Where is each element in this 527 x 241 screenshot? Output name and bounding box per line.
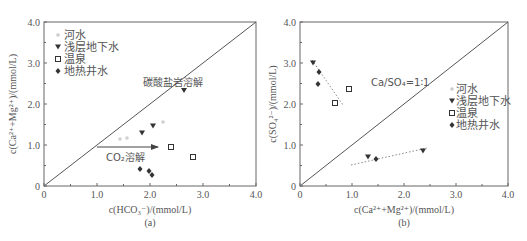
y-tick-label: 1.0 — [284, 140, 297, 151]
y-tick-label: 2.0 — [284, 99, 297, 110]
x-tick-label: 2.0 — [398, 189, 411, 200]
x-tick-label: 3.0 — [450, 189, 463, 200]
legend-label: 温泉 — [64, 52, 86, 66]
square-icon — [56, 57, 61, 62]
x-tick-label: 1.0 — [91, 189, 104, 200]
x-axis-label: c(HCO₃⁻)/(mmol/L) — [109, 204, 192, 216]
x-tick-label: 4.0 — [250, 189, 263, 200]
annotation-carbonate-dissolution: 碳酸盐岩溶解 — [143, 76, 203, 88]
y-tick-label: 0 — [291, 181, 296, 192]
figure: 0 1.0 2.0 3.0 4.0 0 1.0 2.0 3.0 4.0 c(HC… — [0, 0, 527, 241]
series-hot-spring — [333, 87, 352, 106]
legend-label: 地热井水 — [64, 64, 108, 78]
y-tick-label: 0 — [35, 181, 40, 192]
diamond-icon — [450, 122, 455, 128]
river-marker-icon — [56, 33, 60, 37]
x-tick-label: 3.0 — [197, 189, 210, 200]
square-icon — [450, 111, 455, 116]
figure-caption: (b) — [398, 217, 410, 229]
y-tick-label: 4.0 — [284, 17, 297, 28]
y-axis-label: c(Ca²⁺+Mg²⁺)/(mmol/L) — [7, 54, 19, 154]
x-tick-label: 0 — [42, 189, 47, 200]
x-tick-label: 2.0 — [144, 189, 157, 200]
x-tick-label: 4.0 — [502, 189, 515, 200]
legend: 河水 浅层地下水 温泉 地热井水 — [449, 83, 511, 132]
legend: 河水 浅层地下水 温泉 地热井水 — [55, 29, 119, 78]
legend-label: 温泉 — [456, 106, 478, 120]
series-shallow-groundwater — [310, 61, 426, 160]
y-tick-label: 2.0 — [28, 99, 41, 110]
series-hot-spring — [169, 145, 196, 160]
diamond-icon — [56, 68, 61, 74]
series-geothermal-well — [316, 69, 379, 162]
chart-a: 0 1.0 2.0 3.0 4.0 0 1.0 2.0 3.0 4.0 c(HC… — [7, 17, 262, 229]
triangle-down-icon — [55, 45, 61, 50]
figure-caption: (a) — [144, 217, 155, 229]
annotation-co2-dissolution: CO₂溶解 — [106, 151, 145, 163]
series-geothermal-well — [138, 166, 155, 178]
annotation-ca-so4-ratio: Ca/SO₄=1∶1 — [371, 77, 429, 88]
trend-line-lower — [351, 148, 427, 165]
trend-line-upper — [312, 60, 343, 105]
chart-b: 0 1.0 2.0 3.0 4.0 0 1.0 2.0 3.0 4.0 c(Ca… — [267, 17, 514, 229]
y-tick-label: 3.0 — [284, 58, 297, 69]
y-axis-label: c(SO₄²⁻)/(mmol/L) — [267, 65, 279, 142]
x-axis-label: c(Ca²⁺+Mg²⁺)/(mmol/L) — [354, 204, 454, 216]
river-marker-icon — [450, 87, 454, 91]
x-tick-label: 0 — [298, 189, 303, 200]
y-tick-label: 1.0 — [28, 140, 41, 151]
x-tick-label: 1.0 — [346, 189, 359, 200]
y-tick-label: 3.0 — [28, 58, 41, 69]
y-tick-label: 4.0 — [28, 17, 41, 28]
series-shallow-groundwater — [139, 88, 187, 136]
triangle-down-icon — [449, 99, 455, 104]
legend-label: 地热井水 — [456, 118, 500, 132]
